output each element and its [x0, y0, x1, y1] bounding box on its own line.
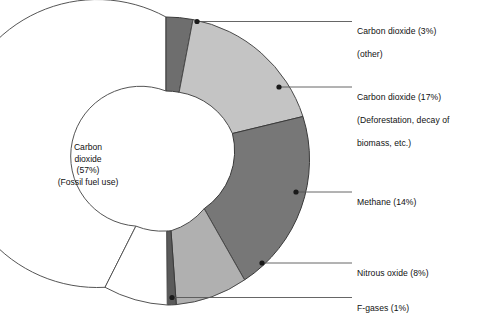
marker-dot-methane: [293, 189, 298, 194]
callout-co2-deforestation-line2: (Deforestation, decay of: [357, 115, 449, 125]
callout-co2-other-line2: (other): [357, 49, 383, 59]
slice-co2-deforestation[interactable]: [179, 20, 303, 134]
greenhouse-gas-donut-chart: Carbon dioxide (57%) (Fossil fuel use) C…: [0, 0, 485, 322]
callout-label-co2-deforestation: Carbon dioxide (17%) (Deforestation, dec…: [357, 81, 485, 149]
callout-methane-line1: Methane (14%): [357, 197, 416, 207]
callout-nitrous-oxide-line1: Nitrous oxide (8%): [357, 268, 429, 278]
callout-label-co2-other: Carbon dioxide (3%) (other): [357, 15, 483, 61]
callout-f-gases-line1: F-gases (1%): [357, 303, 409, 313]
callout-label-nitrous-oxide: Nitrous oxide (8%): [357, 257, 477, 280]
callout-co2-deforestation-line1: Carbon dioxide (17%): [357, 92, 441, 102]
callout-label-f-gases: F-gases (1%): [357, 292, 477, 315]
callout-co2-other-line1: Carbon dioxide (3%): [357, 26, 436, 36]
marker-dot-co2-deforestation: [276, 84, 281, 89]
slice-label-co2-fossil-fuel: Carbon dioxide (57%) (Fossil fuel use): [30, 142, 146, 188]
marker-dot-nitrous-oxide: [259, 260, 264, 265]
marker-dot-f-gases: [169, 295, 174, 300]
callout-label-methane: Methane (14%): [357, 186, 477, 209]
marker-dot-co2-other: [194, 19, 199, 24]
callout-co2-deforestation-line3: biomass, etc.): [357, 138, 411, 148]
